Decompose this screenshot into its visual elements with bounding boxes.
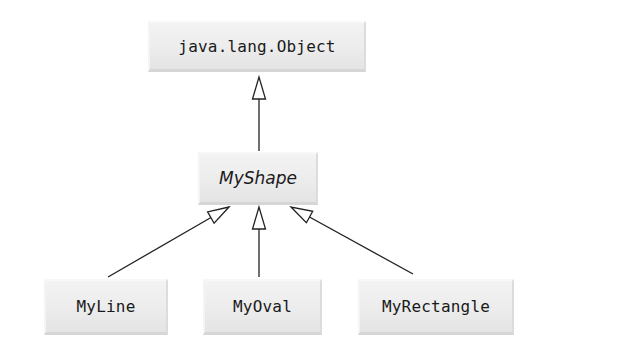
class-box-myoval: MyOval (203, 279, 322, 335)
inheritance-arrowhead-icon (253, 77, 266, 99)
edge-myrectangle-to-myshape (291, 207, 413, 274)
inheritance-arrowhead-icon (208, 207, 229, 223)
class-label: MyRectangle (382, 297, 490, 316)
inheritance-arrowhead-icon (253, 207, 266, 229)
class-box-myline: MyLine (44, 279, 168, 335)
class-box-java-lang-object: java.lang.Object (148, 21, 366, 72)
edge-myoval-to-myshape (253, 207, 266, 277)
class-label: java.lang.Object (178, 37, 335, 56)
edge-myline-to-myshape (108, 207, 229, 277)
class-label: MyOval (233, 297, 292, 316)
class-box-myshape: MyShape (198, 152, 318, 205)
inheritance-arrowhead-icon (291, 207, 313, 223)
class-label: MyLine (77, 297, 136, 316)
edge-myshape-to-object (253, 77, 266, 151)
abstract-class-label: MyShape (219, 168, 297, 188)
class-hierarchy-diagram: java.lang.Object MyShape MyLine MyOval M… (0, 0, 620, 352)
class-box-myrectangle: MyRectangle (358, 279, 514, 335)
